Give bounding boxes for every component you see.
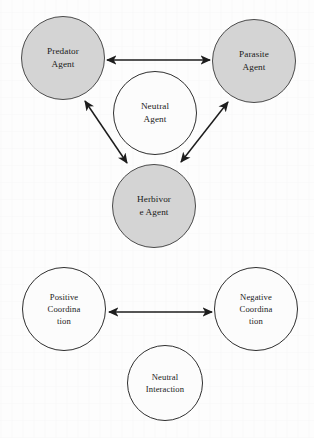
node-label-line: Predator xyxy=(47,45,79,58)
node-label-line: e Agent xyxy=(139,206,168,219)
node-label-line: Neutral xyxy=(141,100,169,113)
node-predator-agent: Predator Agent xyxy=(21,16,105,100)
node-herbivore-agent: Herbivor e Agent xyxy=(112,164,196,248)
node-label-line: tion xyxy=(57,315,71,327)
node-label-line: Negative xyxy=(240,291,272,303)
node-label-line: Agent xyxy=(52,58,75,71)
diagram-canvas: Predator Agent Parasite Agent Neutral Ag… xyxy=(0,0,314,438)
node-label-line: Coordina xyxy=(48,303,81,315)
node-label-line: Neutral xyxy=(152,371,178,383)
node-parasite-agent: Parasite Agent xyxy=(212,19,296,103)
node-label-line: Parasite xyxy=(239,48,269,61)
node-label-line: Agent xyxy=(243,61,266,74)
node-neutral-interaction: Neutral Interaction xyxy=(127,345,203,421)
node-label-line: Positive xyxy=(50,291,79,303)
node-neutral-agent: Neutral Agent xyxy=(113,71,197,155)
node-label-line: tion xyxy=(249,315,263,327)
node-label-line: Agent xyxy=(144,113,167,126)
node-positive-coordination: Positive Coordina tion xyxy=(22,267,106,351)
node-label-line: Herbivor xyxy=(137,193,171,206)
node-label-line: Interaction xyxy=(146,383,184,395)
node-negative-coordination: Negative Coordina tion xyxy=(214,267,298,351)
node-label-line: Coordina xyxy=(240,303,273,315)
